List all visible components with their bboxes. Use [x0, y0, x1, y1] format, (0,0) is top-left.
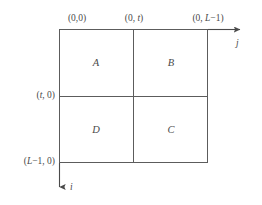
- diagram-canvas: [0, 0, 262, 205]
- quadrant-label-b: B: [168, 58, 174, 69]
- axis-label-i: i: [70, 183, 73, 193]
- label-top-midpoint-coordinate: (0, t): [125, 14, 143, 24]
- label-origin-coordinate: (0,0): [68, 14, 86, 24]
- label-top-right-coordinate: (0, L−1): [192, 14, 223, 24]
- label-bottom-left-coordinate: (L−1, 0): [24, 157, 55, 167]
- axis-arrows: [60, 30, 241, 188]
- label-left-midpoint-coordinate: (t, 0): [37, 91, 55, 101]
- quadrant-dividers: [59, 29, 208, 163]
- quadrant-label-c: C: [167, 125, 174, 136]
- quadrant-label-a: A: [93, 58, 99, 69]
- quadrant-label-d: D: [92, 125, 100, 136]
- axis-label-j: j: [236, 39, 239, 49]
